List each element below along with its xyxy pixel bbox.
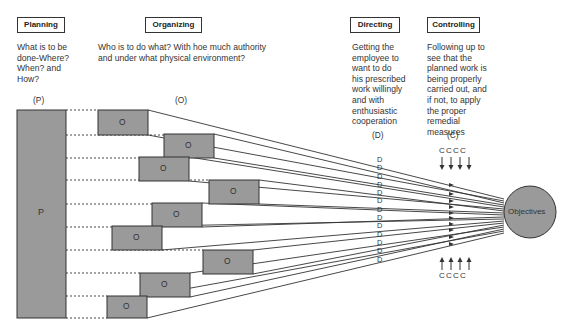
control-arrows-bottom bbox=[442, 260, 469, 270]
directing-markers: D D D D D D D D D D D D D bbox=[377, 156, 382, 264]
organizing-box-label: O bbox=[173, 209, 180, 219]
planning-box-label: P bbox=[38, 207, 44, 217]
objectives-label: Objectives bbox=[508, 207, 545, 216]
process-diagram bbox=[0, 0, 563, 327]
controls-top-label: C C C C bbox=[439, 146, 466, 155]
organizing-box-label: O bbox=[161, 279, 168, 289]
organizing-box-label: O bbox=[185, 140, 192, 150]
organizing-box-label: O bbox=[123, 301, 130, 311]
organizing-box-label: O bbox=[160, 163, 167, 173]
arrowheads bbox=[449, 183, 454, 246]
d-marker: D bbox=[377, 256, 382, 264]
organizing-box-label: O bbox=[224, 256, 231, 266]
controls-bottom-label: C C C C bbox=[439, 271, 466, 280]
control-arrows-top bbox=[442, 157, 469, 167]
organizing-box-label: O bbox=[119, 117, 126, 127]
organizing-box-label: O bbox=[133, 232, 140, 242]
organizing-box-label: O bbox=[230, 186, 237, 196]
